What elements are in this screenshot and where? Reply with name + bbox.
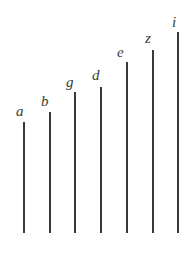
stem-label-g: g bbox=[66, 74, 74, 90]
stem-label-e: e bbox=[117, 44, 124, 60]
figure-canvas: abgdezi bbox=[0, 0, 196, 254]
stem-label-b: b bbox=[41, 93, 49, 109]
stem-label-d: d bbox=[92, 67, 100, 83]
stem-label-a: a bbox=[16, 103, 24, 119]
stem-label-i: i bbox=[172, 14, 176, 30]
figure-background bbox=[0, 0, 196, 254]
stem-diagram: abgdezi bbox=[0, 0, 196, 254]
stem-label-z: z bbox=[144, 30, 151, 46]
